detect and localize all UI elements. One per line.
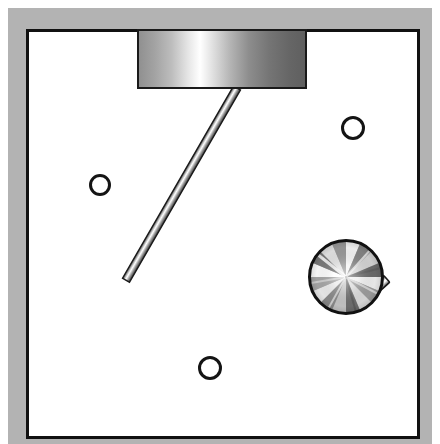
hole-upper-right <box>343 118 364 139</box>
figure-root: Planar mechanical linkage diagram A slid… <box>0 0 440 444</box>
hole-bottom <box>200 358 221 379</box>
hole-left <box>91 176 110 195</box>
inner-border <box>28 31 419 438</box>
slider-block <box>138 30 306 88</box>
mechanical-linkage-figure: Planar mechanical linkage diagram A slid… <box>0 0 440 444</box>
crank-disk <box>309 240 383 314</box>
